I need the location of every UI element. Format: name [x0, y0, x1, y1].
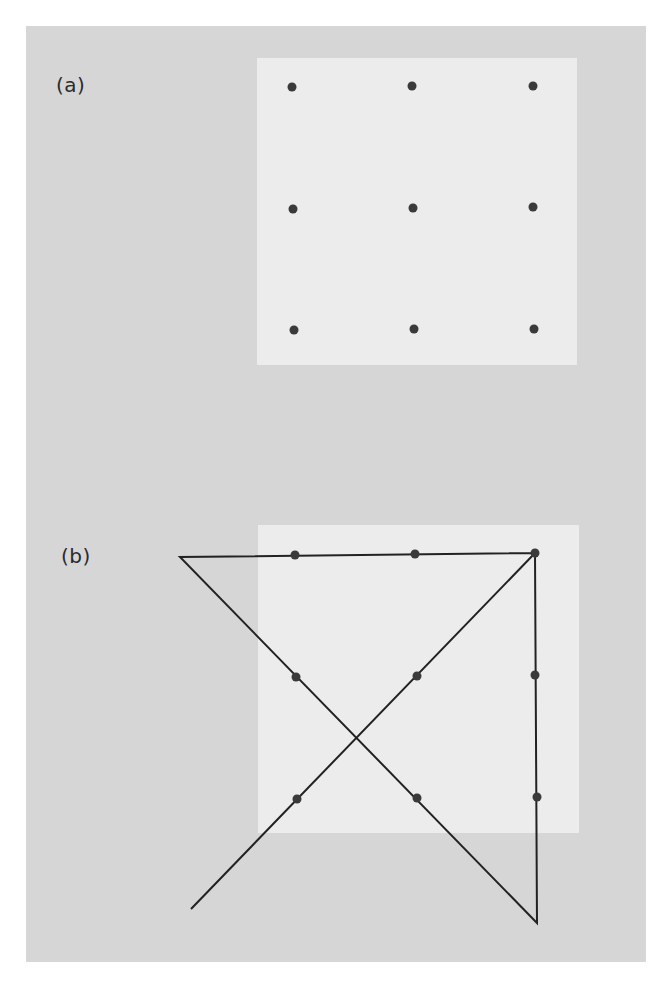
grid-square-a — [257, 58, 577, 365]
dot-icon — [531, 671, 540, 680]
dot-icon — [409, 204, 418, 213]
dot-icon — [293, 795, 302, 804]
nine-dot-diagram — [0, 0, 665, 983]
dot-icon — [291, 551, 300, 560]
dot-icon — [529, 82, 538, 91]
dot-icon — [413, 794, 422, 803]
dot-icon — [411, 550, 420, 559]
dot-icon — [529, 203, 538, 212]
dot-icon — [289, 205, 298, 214]
dot-icon — [530, 325, 539, 334]
panel-label-b: (b) — [61, 546, 91, 566]
panel-b — [180, 525, 579, 923]
dot-icon — [288, 83, 297, 92]
dot-icon — [292, 673, 301, 682]
dot-icon — [410, 325, 419, 334]
dot-icon — [413, 672, 422, 681]
panel-a — [257, 58, 577, 365]
dot-icon — [290, 326, 299, 335]
dot-icon — [531, 549, 540, 558]
dot-icon — [408, 82, 417, 91]
dot-icon — [533, 793, 542, 802]
panel-label-a: (a) — [56, 75, 85, 95]
